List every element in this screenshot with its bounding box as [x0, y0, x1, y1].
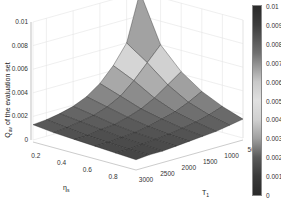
colorbar [252, 5, 262, 196]
z-tick-label: 0.004 [12, 89, 29, 96]
x-tick-label: 0.6 [83, 166, 92, 173]
y-tick-label: 1000 [224, 152, 239, 159]
z-tick-label: 0.006 [12, 65, 29, 72]
x-axis-label: ηs [63, 184, 70, 193]
colorbar-tick-label: 0 [266, 192, 270, 199]
colorbar-tick-label: 0.003 [266, 135, 281, 142]
colorbar-tick-label: 0.009 [266, 22, 281, 29]
colorbar-tick-label: 0.002 [266, 154, 281, 161]
colorbar-tick-label: 0.005 [266, 98, 281, 105]
z-tick-label: 0.01 [15, 18, 28, 25]
colorbar-tick-label: 0.007 [266, 60, 281, 67]
colorbar-tick-label: 0.01 [266, 3, 279, 10]
x-tick-label: 0.8 [109, 173, 118, 180]
y-tick-label: 3000 [139, 176, 154, 183]
z-tick-label: 0 [24, 136, 28, 143]
y-tick-label: 2500 [160, 170, 175, 177]
surface-plot: 00.0020.0040.0060.0080.010.20.40.60.8500… [0, 0, 281, 208]
colorbar-tick-label: 0.006 [266, 79, 281, 86]
colorbar-tick-label: 0.008 [266, 41, 281, 48]
surface-mesh [33, 0, 243, 160]
z-axis-label: Qav of the evaluation set [4, 62, 13, 137]
colorbar-tick-label: 0.001 [266, 173, 281, 180]
z-tick-label: 0.008 [12, 42, 29, 49]
colorbar-tick-label: 0.004 [266, 116, 281, 123]
y-tick-label: 1500 [203, 158, 218, 165]
y-tick-label: 2000 [182, 164, 197, 171]
y-axis-label: T1 [202, 189, 209, 198]
x-tick-label: 0.2 [31, 152, 40, 159]
z-tick-label: 0.002 [12, 112, 29, 119]
x-tick-label: 0.4 [57, 159, 66, 166]
